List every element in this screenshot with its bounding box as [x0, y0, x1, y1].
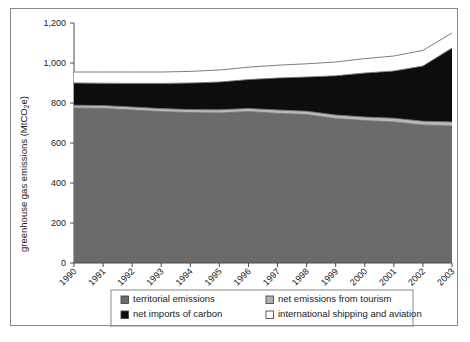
legend-item: territorial emissions [121, 293, 215, 304]
legend-item: net emissions from tourism [266, 293, 392, 304]
y-tick-label: 1,000 [43, 58, 66, 68]
chart-legend: territorial emissionsnet emissions from … [111, 290, 422, 327]
y-axis-label: greenhouse gas emissions (MtCO2e) [18, 96, 30, 252]
legend-swatch-light-gray [266, 296, 274, 304]
x-tick-label: 1990 [57, 266, 78, 287]
legend-swatch-white [266, 311, 274, 319]
legend-label: net emissions from tourism [278, 293, 392, 304]
x-tick-label: 1999 [319, 266, 340, 287]
area-band-territorial-emissions [74, 108, 452, 263]
y-tick-label: 800 [51, 98, 66, 108]
x-tick-label: 1998 [290, 266, 311, 287]
legend-item: international shipping and aviation [266, 308, 422, 319]
x-axis-ticks: 1990199119921993199419951996199719981999… [57, 263, 456, 288]
x-tick-label: 2002 [406, 266, 427, 287]
x-tick-label: 1994 [173, 266, 194, 287]
x-tick-label: 2001 [377, 266, 398, 287]
chart-container: greenhouse gas emissions (MtCO2e) 020040… [11, 9, 459, 327]
legend-item: net imports of carbon [121, 308, 222, 319]
legend-label: net imports of carbon [133, 308, 222, 319]
y-tick-label: 200 [51, 218, 66, 228]
x-tick-label: 1992 [115, 266, 136, 287]
y-axis-label-text: greenhouse gas emissions (MtCO [18, 108, 29, 252]
x-tick-label: 2000 [348, 266, 369, 287]
x-tick-label: 1996 [232, 266, 253, 287]
area-bands [74, 33, 452, 263]
x-tick-label: 1991 [86, 266, 107, 287]
figure-frame: greenhouse gas emissions (MtCO2e) 020040… [10, 8, 458, 326]
y-tick-label: 400 [51, 178, 66, 188]
legend-swatch-dark-gray [121, 296, 129, 304]
x-tick-label: 1995 [203, 266, 224, 287]
legend-swatch-black [121, 311, 129, 319]
x-tick-label: 2003 [435, 266, 456, 287]
x-tick-label: 1997 [261, 266, 282, 287]
y-axis-ticks: 02004006008001,0001,200 [43, 18, 74, 268]
stacked-area-chart: greenhouse gas emissions (MtCO2e) 020040… [11, 9, 459, 327]
x-tick-label: 1993 [144, 266, 165, 287]
svg-text:greenhouse gas emissions (MtCO: greenhouse gas emissions (MtCO2e) [18, 96, 30, 252]
y-tick-label: 1,200 [43, 18, 66, 28]
y-tick-label: 600 [51, 138, 66, 148]
y-tick-label: 0 [61, 258, 66, 268]
legend-label: territorial emissions [133, 293, 215, 304]
legend-label: international shipping and aviation [278, 308, 422, 319]
